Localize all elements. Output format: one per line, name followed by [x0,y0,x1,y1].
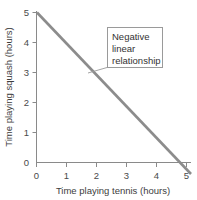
x-tick-label-4: 4 [154,170,159,181]
x-tick-label-2: 2 [94,170,99,181]
y-tick-label-2: 2 [24,97,29,108]
y-tick-label-0: 0 [24,157,29,168]
y-tick-label-4: 4 [24,37,29,48]
x-tick-label-3: 3 [124,170,129,181]
annotation-line-1: Negative [112,31,150,42]
annotation-line-2: linear [112,43,135,54]
x-tick-label-1: 1 [64,170,69,181]
scatter-line-chart: 5 4 3 2 1 0 0 1 2 3 4 5 Negative linear … [0,0,197,200]
y-axis-title: Time playing squash (hours) [3,27,14,147]
y-tick-label-3: 3 [24,67,29,78]
x-axis-title: Time playing tennis (hours) [56,185,170,196]
annotation-line-3: relationship [112,55,161,66]
x-tick-label-0: 0 [34,170,39,181]
chart-container: 5 4 3 2 1 0 0 1 2 3 4 5 Negative linear … [0,0,197,200]
y-tick-label-5: 5 [24,7,29,18]
y-tick-label-1: 1 [24,127,29,138]
